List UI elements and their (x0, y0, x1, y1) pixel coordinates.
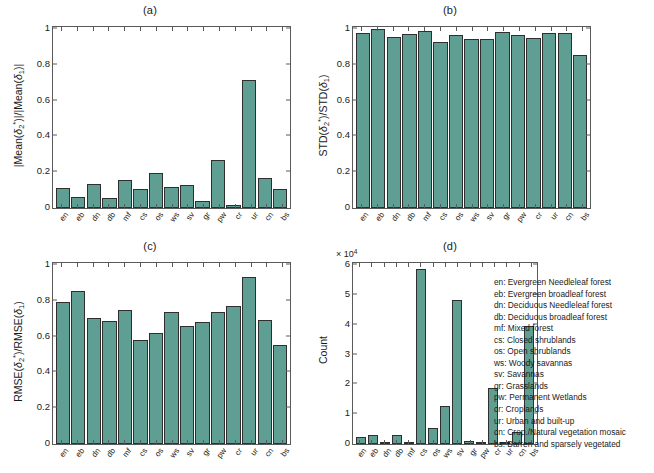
panel-a-xtick-mark-top-9 (203, 27, 204, 31)
panel-d-xtick-mark-top-4 (408, 263, 409, 267)
panel-a-xtick-label-bs: bs (280, 211, 292, 223)
panel-b-xtick-mark-11 (535, 204, 536, 208)
panel-b-xtick-mark-7 (472, 204, 473, 208)
panel-b-xtick-label-ws: ws (468, 211, 480, 224)
panel-b-ytick-mark-1 (353, 171, 357, 172)
panel-c-xtick-mark-9 (203, 440, 204, 444)
legend-entry-os: os: Open shrublands (494, 346, 626, 358)
bar-bs (273, 189, 287, 208)
panel-a-plot-area: 00.20.40.60.81 (52, 26, 291, 209)
panel-a-xtick-label-en: en (58, 211, 70, 223)
panel-a-xtick-label-pw: pw (216, 211, 229, 224)
panel-b-xtick-mark-top-5 (440, 27, 441, 31)
bar-ws (164, 312, 178, 444)
panel-d-ytick-mark-5 (353, 293, 357, 294)
panel-b-xtick-label-sv: sv (485, 211, 496, 222)
panel-c-ytick-mark-5 (53, 264, 57, 265)
panel-b-xtick-label-pw: pw (516, 211, 529, 224)
panel-b-y-axis-label: STD(δ2*)/STD(δ1) (316, 51, 331, 181)
panel-d-ytick-label-3: 3 (345, 349, 350, 359)
panel-b-xtick-label-cr: cr (534, 211, 544, 221)
panel-a-xtick-mark-5 (140, 204, 141, 208)
panel-c-title: (c) (0, 240, 300, 252)
panel-c-ytick-label-2: 0.4 (37, 367, 50, 377)
panel-a-ytick-mark-right-3 (286, 99, 290, 100)
panel-a-ytick-mark-3 (53, 99, 57, 100)
panel-c-xtick-mark-13 (266, 440, 267, 444)
panel-a-xtick-mark-top-0 (61, 27, 62, 31)
panel-a-ytick-label-4: 0.8 (37, 59, 50, 69)
panel-b-xtick-mark-5 (440, 204, 441, 208)
panel-c-xtick-label-mf: mf (122, 447, 134, 459)
panel-d-xtick-mark-7 (445, 440, 446, 444)
panel-b-xtick-mark-top-14 (582, 27, 583, 31)
panel-c-xtick-label-cr: cr (234, 447, 244, 457)
panel-d-xtick-mark-top-5 (420, 263, 421, 267)
panel-c-xtick-label-ws: ws (168, 447, 180, 460)
panel-d-xtick-label-sv: sv (455, 447, 466, 458)
panel-b-xtick-label-gr: gr (502, 211, 513, 222)
panel-b-xtick-mark-top-0 (361, 27, 362, 31)
bar-db (102, 198, 116, 208)
bar-en (56, 188, 70, 208)
panel-d-xtick-mark-top-8 (457, 263, 458, 267)
panel-c-xtick-mark-7 (172, 440, 173, 444)
bar-cn (258, 178, 272, 208)
panel-c-xtick-mark-top-13 (266, 263, 267, 267)
panel-b-xtick-label-bs: bs (580, 211, 592, 223)
legend-entry-mf: mf: Mixed forest (494, 323, 626, 335)
panel-a-xtick-mark-7 (172, 204, 173, 208)
bar-eb (71, 197, 85, 208)
panel-b-plot-area: 00.20.40.60.81 (352, 26, 591, 209)
legend-entry-bs: bs: Barren and sparsely vegetated (494, 439, 626, 451)
panel-b-xtick-label-cn: cn (564, 211, 576, 223)
panel-b-xtick-mark-top-8 (487, 27, 488, 31)
bar-db (402, 34, 416, 208)
panel-b-xtick-mark-12 (551, 204, 552, 208)
bar-en (356, 437, 367, 444)
panel-d-xtick-label-eb: eb (369, 447, 381, 459)
panel-d-xtick-mark-top-13 (519, 263, 520, 267)
panel-b-ytick-mark-4 (353, 63, 357, 64)
legend-entry-dn: dn: Deciduous Needleleaf forest (494, 300, 626, 312)
panel-a-xtick-label-eb: eb (74, 211, 86, 223)
panel-c-ytick-label-0: 0 (45, 438, 50, 448)
panel-d-xtick-mark-top-14 (531, 263, 532, 267)
bar-eb (371, 29, 385, 208)
panel-b-xtick-mark-top-12 (551, 27, 552, 31)
panel-b-xtick-label-ur: ur (549, 211, 560, 222)
panel-a-xtick-mark-top-12 (251, 27, 252, 31)
panel-d-xtick-label-dn: dn (381, 447, 393, 459)
panel-d-xtick-mark-top-10 (482, 263, 483, 267)
bar-pw (511, 35, 525, 208)
panel-a-xtick-mark-8 (187, 204, 188, 208)
panel-a-xtick-mark-3 (108, 204, 109, 208)
panel-a-xtick-mark-2 (93, 204, 94, 208)
panel-a-xtick-mark-top-8 (187, 27, 188, 31)
panel-b-xtick-label-cs: cs (438, 211, 449, 222)
panel-b: (b) STD(δ2*)/STD(δ1) 00.20.40.60.81 eneb… (300, 4, 600, 234)
panel-a-xtick-mark-9 (203, 204, 204, 208)
bar-bs (573, 55, 587, 208)
panel-c-ytick-mark-4 (53, 299, 57, 300)
panel-d-ytick-mark-4 (353, 323, 357, 324)
panel-c-y-axis-label: RMSE(δ2*)/RMSE(δ1) (11, 284, 26, 420)
panel-a-xtick-label-cs: cs (138, 211, 149, 222)
panel-a-xtick-mark-1 (77, 204, 78, 208)
bar-dn (87, 184, 101, 208)
panel-c-xtick-label-os: os (153, 447, 165, 459)
legend-entry-cr: cr: Croplands (494, 404, 626, 416)
bar-ws (440, 406, 451, 444)
panel-d-x-tick-labels: enebdndbmfcsoswssvgrpwcrurcnbs (352, 447, 538, 473)
panel-a-ytick-mark-right-1 (286, 171, 290, 172)
panel-c-xtick-label-cs: cs (138, 447, 149, 458)
panel-d-xtick-label-gr: gr (468, 447, 479, 458)
panel-c-xtick-mark-top-8 (187, 263, 188, 267)
panel-b-xtick-label-eb: eb (374, 211, 386, 223)
bar-cr (226, 205, 240, 208)
panel-d-xtick-mark-2 (384, 440, 385, 444)
panel-b-ytick-mark-right-5 (586, 28, 590, 29)
panel-a-xtick-mark-top-13 (266, 27, 267, 31)
panel-c-xtick-mark-12 (251, 440, 252, 444)
panel-b-xtick-label-en: en (358, 211, 370, 223)
